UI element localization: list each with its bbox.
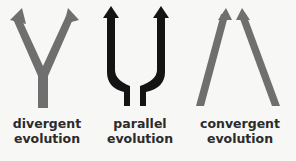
- parallel-label-line1: parallel: [100, 116, 180, 131]
- convergent-arrow-icon: [196, 8, 280, 106]
- divergent-label-line1: divergent: [4, 116, 90, 131]
- convergent-label: convergent evolution: [196, 116, 284, 146]
- divergent-label: divergent evolution: [4, 116, 90, 146]
- parallel-label-line2: evolution: [100, 131, 180, 146]
- divergent-label-line2: evolution: [4, 131, 90, 146]
- convergent-label-line1: convergent: [196, 116, 284, 131]
- divergent-arrow-icon: [10, 8, 79, 108]
- convergent-label-line2: evolution: [196, 131, 284, 146]
- parallel-arrow-icon: [103, 6, 169, 106]
- parallel-label: parallel evolution: [100, 116, 180, 146]
